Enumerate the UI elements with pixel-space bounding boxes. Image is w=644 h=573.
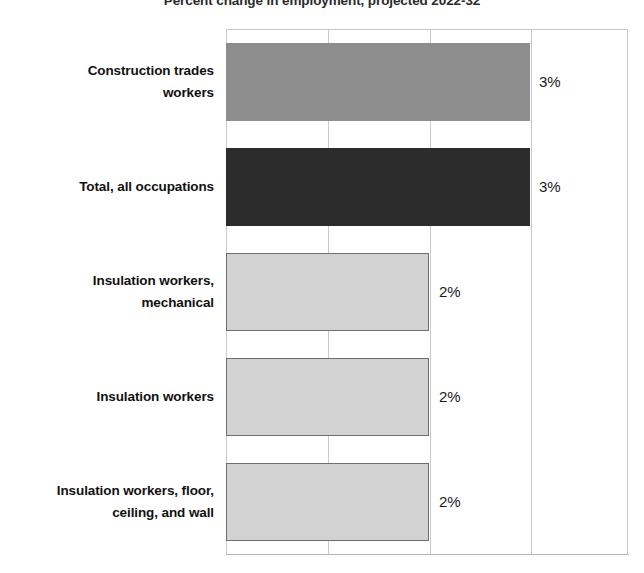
- bar-category-label: Construction trades workers: [0, 29, 214, 134]
- bar-category-label-line: ceiling, and wall: [112, 502, 214, 524]
- bar-value-label: 2%: [430, 449, 461, 554]
- bar-category-label-line: Insulation workers,: [93, 270, 214, 292]
- bar-chart: Percent change in employment, projected …: [0, 0, 644, 573]
- bar-row: Insulation workers 2%: [0, 344, 644, 449]
- bar-category-label-line: workers: [163, 82, 214, 104]
- bar-row: Construction trades workers 3%: [0, 29, 644, 134]
- x-axis-line: [226, 554, 629, 555]
- bar-category-label-line: Insulation workers, floor,: [57, 480, 214, 502]
- bar-construction-trades-workers[interactable]: [226, 43, 530, 121]
- bar-category-label-line: Total, all occupations: [79, 176, 214, 198]
- bar-category-label-line: mechanical: [141, 292, 214, 314]
- bar-value-label: 3%: [530, 134, 561, 239]
- bar-value-label: 3%: [530, 29, 561, 134]
- bar-value-label: 2%: [430, 344, 461, 449]
- bar-category-label: Insulation workers: [0, 344, 214, 449]
- bar-category-label: Total, all occupations: [0, 134, 214, 239]
- bar-insulation-workers[interactable]: [226, 358, 429, 436]
- bar-row: Insulation workers, floor, ceiling, and …: [0, 449, 644, 554]
- bar-category-label: Insulation workers, mechanical: [0, 239, 214, 344]
- bar-category-label-line: Insulation workers: [97, 386, 214, 408]
- bar-insulation-workers-mechanical[interactable]: [226, 253, 429, 331]
- chart-title: Percent change in employment, projected …: [0, 0, 644, 8]
- bar-row: Insulation workers, mechanical 2%: [0, 239, 644, 344]
- bar-category-label-line: Construction trades: [88, 60, 214, 82]
- bar-value-label: 2%: [430, 239, 461, 344]
- bar-category-label: Insulation workers, floor, ceiling, and …: [0, 449, 214, 554]
- bar-total-all-occupations[interactable]: [226, 148, 530, 226]
- bar-insulation-workers-floor-ceiling-wall[interactable]: [226, 463, 429, 541]
- bar-row: Total, all occupations 3%: [0, 134, 644, 239]
